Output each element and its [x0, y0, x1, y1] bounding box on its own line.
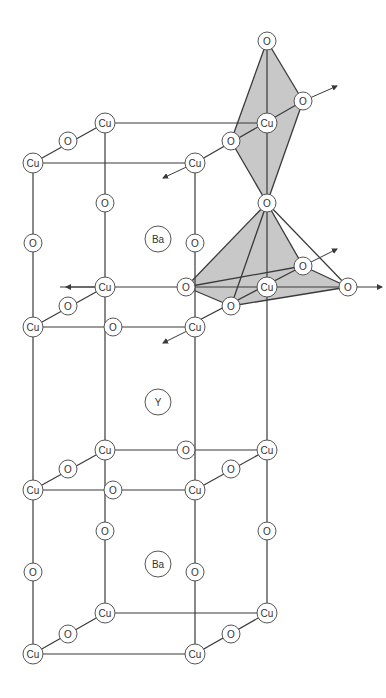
- atom-ba: Ba: [145, 551, 171, 577]
- atom-label: O: [263, 198, 271, 209]
- atom-cu: Cu: [185, 480, 205, 500]
- atom-label: O: [344, 282, 352, 293]
- atom-ba: Ba: [145, 226, 171, 252]
- atom-label: Y: [155, 397, 162, 408]
- atom-cu: Cu: [95, 603, 115, 623]
- atom-y: Y: [145, 389, 171, 415]
- atom-label: Cu: [261, 445, 274, 456]
- atom-label: Cu: [27, 485, 40, 496]
- atom-label: Cu: [99, 118, 112, 129]
- atom-cu: Cu: [23, 317, 43, 337]
- atom-label: Cu: [189, 158, 202, 169]
- atom-o: O: [24, 563, 42, 581]
- atom-o: O: [177, 278, 195, 296]
- atom-o: O: [96, 522, 114, 540]
- atom-o: O: [339, 278, 357, 296]
- atom-o: O: [59, 297, 77, 315]
- atom-cu: Cu: [23, 480, 43, 500]
- atom-o: O: [59, 132, 77, 150]
- atom-label: O: [64, 629, 72, 640]
- atom-o: O: [222, 297, 240, 315]
- atom-label: O: [191, 567, 199, 578]
- atom-label: O: [29, 567, 37, 578]
- crystal-structure-diagram: OOCuCuOOCuCuOOBaOOOCuOCuOOOCuOCuYCuOCuOO…: [0, 0, 386, 698]
- atom-cu: Cu: [95, 277, 115, 297]
- atom-label: Cu: [261, 608, 274, 619]
- atom-cu: Cu: [185, 644, 205, 664]
- atom-cu: Cu: [23, 644, 43, 664]
- atom-label: Cu: [27, 649, 40, 660]
- atom-label: O: [109, 322, 117, 333]
- atom-cu: Cu: [257, 113, 277, 133]
- atom-o: O: [177, 441, 195, 459]
- atom-label: O: [227, 464, 235, 475]
- atom-o: O: [104, 318, 122, 336]
- atom-label: Cu: [189, 322, 202, 333]
- atom-label: O: [64, 136, 72, 147]
- atom-label: Cu: [27, 322, 40, 333]
- atom-label: O: [299, 96, 307, 107]
- atom-label: Cu: [189, 485, 202, 496]
- atom-o: O: [24, 234, 42, 252]
- atom-cu: Cu: [185, 317, 205, 337]
- atom-cu: Cu: [95, 113, 115, 133]
- atom-label: Cu: [99, 608, 112, 619]
- atom-label: O: [29, 238, 37, 249]
- atom-cu: Cu: [185, 153, 205, 173]
- atom-label: O: [109, 485, 117, 496]
- atom-cu: Cu: [23, 153, 43, 173]
- atom-cu: Cu: [95, 440, 115, 460]
- atom-o: O: [59, 625, 77, 643]
- atom-label: Cu: [261, 118, 274, 129]
- atom-label: O: [101, 526, 109, 537]
- atom-label: O: [182, 445, 190, 456]
- atom-label: Cu: [27, 158, 40, 169]
- atom-o: O: [104, 481, 122, 499]
- atom-label: O: [101, 198, 109, 209]
- atom-label: Ba: [152, 559, 165, 570]
- atom-o: O: [96, 194, 114, 212]
- atoms: OOCuCuOOCuCuOOBaOOOCuOCuOOOCuOCuYCuOCuOO…: [23, 32, 357, 664]
- atom-label: O: [263, 36, 271, 47]
- atom-label: O: [227, 136, 235, 147]
- atom-cu: Cu: [257, 440, 277, 460]
- atom-o: O: [222, 132, 240, 150]
- atom-o: O: [59, 460, 77, 478]
- atom-label: O: [299, 261, 307, 272]
- atom-label: O: [64, 464, 72, 475]
- atom-o: O: [222, 625, 240, 643]
- atom-o: O: [186, 234, 204, 252]
- atom-o: O: [294, 92, 312, 110]
- atom-o: O: [186, 563, 204, 581]
- atom-cu: Cu: [257, 277, 277, 297]
- atom-o: O: [258, 194, 276, 212]
- atom-label: O: [227, 629, 235, 640]
- atom-label: O: [227, 301, 235, 312]
- atom-label: Ba: [152, 234, 165, 245]
- atom-label: O: [64, 301, 72, 312]
- atom-label: Cu: [261, 282, 274, 293]
- bond-lines: [33, 41, 348, 654]
- atom-label: O: [191, 238, 199, 249]
- atom-label: Cu: [99, 282, 112, 293]
- atom-cu: Cu: [257, 603, 277, 623]
- atom-label: Cu: [99, 445, 112, 456]
- atom-label: Cu: [189, 649, 202, 660]
- atom-o: O: [294, 257, 312, 275]
- atom-label: O: [263, 526, 271, 537]
- atom-o: O: [222, 460, 240, 478]
- atom-label: O: [182, 282, 190, 293]
- atom-o: O: [258, 32, 276, 50]
- atom-o: O: [258, 522, 276, 540]
